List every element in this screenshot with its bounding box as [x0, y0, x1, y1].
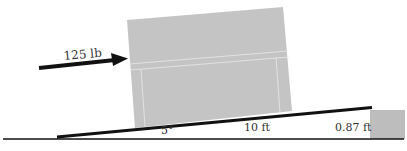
- crate-body: [127, 7, 292, 128]
- inclined-plane-diagram: 125 lb 5° 10 ft 0.87 ft: [0, 0, 407, 151]
- height-label: 0.87 ft: [335, 121, 372, 134]
- crate: [127, 7, 292, 128]
- arrow-icon-head: [111, 53, 128, 66]
- ramp-length-label: 10 ft: [244, 121, 271, 134]
- support-block: [370, 110, 405, 139]
- angle-label: 5°: [161, 124, 174, 137]
